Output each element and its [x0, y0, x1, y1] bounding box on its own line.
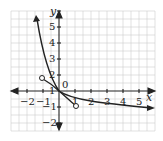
y-tick-label: 3 — [49, 53, 55, 64]
grid — [11, 11, 155, 131]
y-tick-label: −2 — [42, 117, 57, 128]
y-axis-arrow-icon — [56, 11, 62, 18]
curve-up-arrow-icon — [33, 15, 40, 22]
x-axis-label: x — [146, 91, 153, 104]
x-tick-label: −2 — [20, 96, 35, 107]
y-tick-label: −1 — [42, 101, 57, 112]
x-axis-left-arrow-icon — [11, 88, 18, 94]
y-tick-label: 5 — [49, 21, 55, 32]
y-axis-label: y — [49, 5, 57, 18]
y-axis-down-arrow-icon — [56, 123, 62, 130]
y-tick-label: 4 — [49, 37, 55, 48]
x-tick-label: 5 — [136, 96, 142, 107]
curve-right-arrow-icon — [147, 105, 155, 111]
x-tick-label: 3 — [104, 96, 110, 107]
open-endpoint-icon — [40, 76, 45, 81]
origin-label: 0 — [62, 79, 68, 90]
open-endpoint-icon — [74, 104, 79, 109]
coordinate-graph: y x 0 −2 −1 1 2 3 4 5 5 4 3 2 1 −1 −2 — [0, 0, 163, 141]
